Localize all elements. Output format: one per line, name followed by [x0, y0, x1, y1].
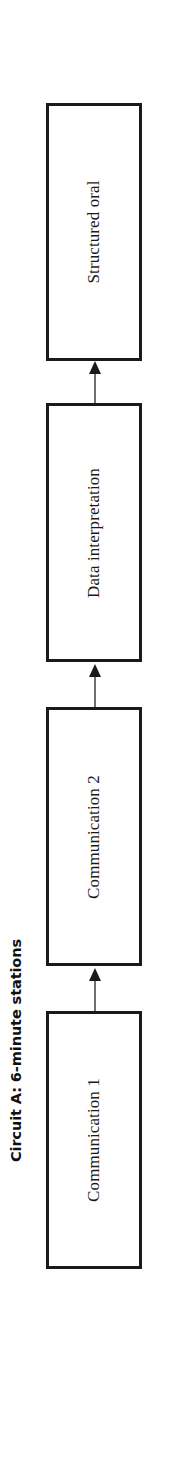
node-label: Communication 2 [84, 775, 104, 899]
arrow-shaft [94, 675, 96, 708]
process-node-communication-1[interactable]: Communication 1 [46, 1011, 142, 1269]
node-label: Data interpretation [84, 468, 104, 598]
figure-title: Circuit A: 6-minute stations [0, 852, 32, 1162]
process-node-communication-2[interactable]: Communication 2 [46, 707, 142, 966]
arrow-head-icon [89, 664, 101, 677]
node-label: Communication 1 [84, 1078, 104, 1202]
connector-arrow-up-icon [88, 968, 102, 1012]
flowchart-diagram: Circuit A: 6-minute stations Structured … [0, 0, 171, 1480]
arrow-shaft [94, 372, 96, 404]
arrow-head-icon [89, 361, 101, 374]
connector-arrow-up-icon [88, 361, 102, 404]
process-node-structured-oral[interactable]: Structured oral [46, 103, 142, 361]
arrow-shaft [94, 979, 96, 1012]
node-label: Structured oral [84, 181, 104, 284]
arrow-head-icon [89, 968, 101, 981]
process-node-data-interpretation[interactable]: Data interpretation [46, 403, 142, 662]
connector-arrow-up-icon [88, 664, 102, 708]
